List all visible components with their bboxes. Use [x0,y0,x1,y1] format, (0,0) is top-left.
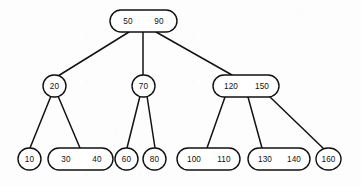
tree-edge-n70-to-n80 [147,96,155,148]
tree-node-n130_140[interactable]: 130140 [248,148,310,170]
tree-node-n80[interactable]: 80 [143,148,166,170]
tree-node-n10[interactable]: 10 [18,148,41,170]
tree-edge-n120_150-to-n160 [270,97,325,150]
node-key-n30_40-0: 30 [61,155,71,164]
tree-edge-n70-to-n60 [127,96,140,148]
node-key-n160-0: 160 [322,155,336,164]
edge-layer [30,32,325,150]
tree-edge-root-to-n120_150 [156,32,232,75]
node-key-n30_40-1: 40 [92,155,102,164]
node-key-n80-0: 80 [150,155,160,164]
node-key-n60-0: 60 [122,155,132,164]
node-key-n70-0: 70 [139,82,149,91]
node-key-n20-0: 20 [50,82,60,91]
node-layer: 509020701201501030406080100110130140160 [18,10,341,170]
node-key-root-1: 90 [154,17,164,26]
b-tree-diagram: 509020701201501030406080100110130140160 [0,0,361,186]
tree-node-n120_150[interactable]: 120150 [213,75,279,97]
node-key-n120_150-0: 120 [224,82,238,91]
node-key-n10-0: 10 [25,155,35,164]
node-key-n100_110-0: 100 [187,155,201,164]
node-outline-n30_40 [48,148,113,170]
tree-node-n100_110[interactable]: 100110 [177,148,240,170]
tree-edge-root-to-n20 [58,32,129,76]
tree-node-n30_40[interactable]: 3040 [48,148,113,170]
node-key-n130_140-1: 140 [287,155,301,164]
diagram-canvas: 509020701201501030406080100110130140160 [0,0,361,186]
node-key-n130_140-0: 130 [258,155,272,164]
tree-edge-n120_150-to-n130_140 [248,97,262,148]
tree-edge-n120_150-to-n100_110 [207,97,225,148]
tree-node-n60[interactable]: 60 [115,148,138,170]
node-key-root-0: 50 [123,17,133,26]
tree-node-n70[interactable]: 70 [132,75,155,97]
node-key-n100_110-1: 110 [217,155,231,164]
node-outline-n120_150 [213,75,279,97]
tree-edge-n20-to-n10 [30,96,51,148]
tree-node-n20[interactable]: 20 [43,75,66,97]
tree-node-root[interactable]: 5090 [110,10,177,32]
tree-node-n160[interactable]: 160 [316,148,341,170]
node-key-n120_150-1: 150 [255,82,269,91]
tree-edge-n20-to-n30_40 [58,96,80,148]
node-outline-root [110,10,177,32]
